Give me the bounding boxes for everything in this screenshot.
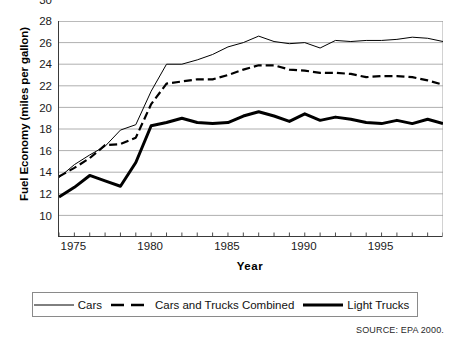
x-tick-label: 1980 <box>128 240 172 252</box>
y-tick-label: 28 <box>26 16 52 28</box>
chart-canvas <box>59 21 443 237</box>
fuel-economy-chart-figure: Fuel Economy (miles per gallon) 10121416… <box>0 0 454 346</box>
y-tick-label: 18 <box>26 124 52 136</box>
plot-frame <box>58 21 442 237</box>
y-tick-label: 10 <box>26 211 52 223</box>
chart-plot-region: Fuel Economy (miles per gallon) 10121416… <box>0 0 454 250</box>
y-tick-label: 20 <box>26 103 52 115</box>
legend-item[interactable]: Light Trucks <box>302 299 417 311</box>
x-axis-tick-labels: 19751980198519901995 <box>58 240 442 258</box>
x-tick-label: 1985 <box>205 240 249 252</box>
x-tick-label: 1990 <box>282 240 326 252</box>
series-line <box>59 112 443 197</box>
legend-item-label: Cars and Trucks Combined <box>152 299 302 311</box>
legend-item[interactable]: Cars <box>33 299 110 311</box>
chart-legend: CarsCars and Trucks CombinedLight Trucks <box>32 292 418 317</box>
x-tick-label: 1975 <box>51 240 95 252</box>
legend-line-swatch <box>33 299 75 311</box>
y-axis-tick-labels: 1012141618202224262830 <box>22 0 52 216</box>
legend-item-label: Cars <box>75 299 110 311</box>
x-axis-title: Year <box>58 260 442 272</box>
series-line <box>59 65 443 176</box>
legend-item[interactable]: Cars and Trucks Combined <box>110 299 302 311</box>
y-tick-label: 12 <box>26 189 52 201</box>
x-tick-label: 1995 <box>359 240 403 252</box>
y-tick-label: 26 <box>26 38 52 50</box>
y-tick-label: 22 <box>26 81 52 93</box>
series-line <box>59 36 443 177</box>
legend-item-label: Light Trucks <box>344 299 417 311</box>
y-tick-label: 30 <box>26 0 52 6</box>
y-tick-label: 16 <box>26 146 52 158</box>
legend-line-swatch <box>110 299 152 311</box>
legend-line-swatch <box>302 299 344 311</box>
y-tick-label: 24 <box>26 59 52 71</box>
source-note: SOURCE: EPA 2000. <box>356 325 444 335</box>
y-tick-label: 14 <box>26 167 52 179</box>
